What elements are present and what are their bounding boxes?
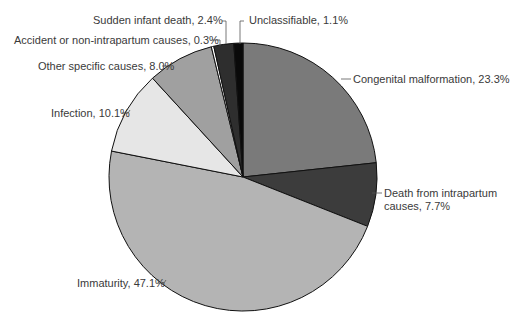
label-accident: Accident or non-intrapartum causes, 0.3% [14,34,219,47]
label-intrapartum-line2: causes, 7.7% [384,200,450,213]
label-intrapartum-line1: Death from intrapartum [384,187,497,200]
label-congenital-malformation: Congenital malformation, 23.3% [353,73,510,86]
pie-slice-congenital-malformation [243,43,376,177]
label-immaturity: Immaturity, 47.1% [77,277,165,290]
label-unclassifiable: Unclassifiable, 1.1% [249,14,348,27]
leader-unclassifiable [240,21,244,44]
label-sudden-infant-death: Sudden infant death, 2.4% [93,14,223,27]
label-infection: Infection, 10.1% [51,107,130,120]
pie-slices [109,43,377,311]
label-other-specific-causes: Other specific causes, 8.0% [38,60,174,73]
